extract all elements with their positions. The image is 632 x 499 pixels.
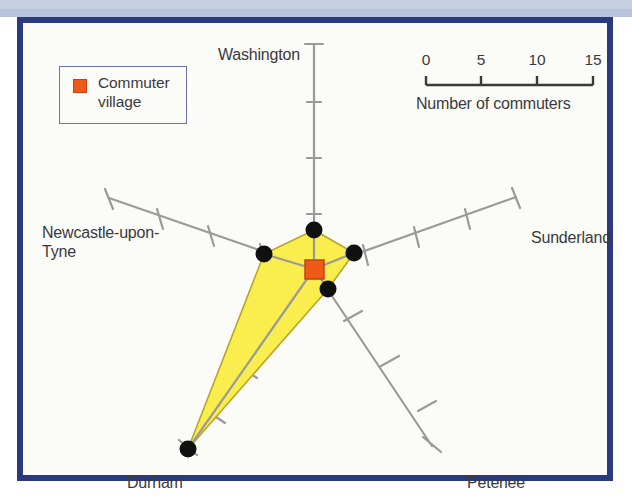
scale-tick-label-5: 5 xyxy=(477,51,486,69)
scan-top-band xyxy=(0,0,632,17)
figure-canvas: Commuter village 0 5 10 15 Number of com… xyxy=(0,0,632,499)
axis-label-sunderland: Sunderland xyxy=(531,228,611,247)
data-point-durham xyxy=(180,441,197,458)
scale-bar: 0 5 10 15 Number of commuters xyxy=(416,51,611,125)
tick-peterlee-end xyxy=(423,437,441,452)
tick-peterlee-10 xyxy=(381,356,399,366)
data-point-newcastle xyxy=(256,246,273,263)
tick-sunderland-10 xyxy=(414,227,419,247)
commuter-village-marker xyxy=(305,260,324,279)
figure-frame: Commuter village 0 5 10 15 Number of com… xyxy=(17,17,613,481)
tick-peterlee-15 xyxy=(418,401,436,411)
scale-bar-caption: Number of commuters xyxy=(416,95,570,113)
scale-tick-label-10: 10 xyxy=(528,51,545,69)
tick-peterlee-5 xyxy=(344,311,362,321)
axis-label-peterlee: Peterlee xyxy=(467,473,525,492)
axis-label-washington: Washington xyxy=(218,45,300,64)
legend-label: Commuter village xyxy=(98,73,182,111)
legend-box: Commuter village xyxy=(59,66,187,124)
scale-tick-label-15: 15 xyxy=(584,51,601,69)
axis-label-newcastle: Newcastle-upon-Tyne xyxy=(42,223,162,261)
data-point-peterlee xyxy=(320,281,337,298)
scale-tick-label-0: 0 xyxy=(422,51,431,69)
tick-sunderland-5 xyxy=(363,245,368,265)
tick-newcastle-10 xyxy=(208,226,214,246)
data-point-washington xyxy=(306,222,323,239)
orange-square-icon xyxy=(73,79,87,93)
scan-top-band-highlight xyxy=(0,0,632,9)
tick-sunderland-15 xyxy=(465,209,470,229)
axis-label-durham: Durham xyxy=(127,473,183,492)
data-point-sunderland xyxy=(346,245,363,262)
